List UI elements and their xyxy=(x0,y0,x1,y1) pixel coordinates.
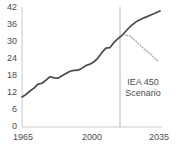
y-axis-tick-label: 36 xyxy=(0,20,17,29)
y-axis-tick-label: 18 xyxy=(0,71,17,80)
annotation-line-1: IEA 450 xyxy=(110,77,176,88)
iea-450-scenario-annotation: IEA 450 Scenario xyxy=(110,77,176,99)
y-axis-tick-label: 24 xyxy=(0,54,17,63)
chart-plot-area xyxy=(0,0,178,152)
y-axis-tick-label: 30 xyxy=(0,37,17,46)
chart-axes xyxy=(22,7,162,127)
y-axis-tick-label: 42 xyxy=(0,3,17,12)
x-axis-tick-label: 2035 xyxy=(142,133,176,142)
chart-container: 42 36 30 24 18 12 6 0 1965 2000 2035 IEA… xyxy=(0,0,178,152)
x-axis-tick-label: 2000 xyxy=(75,133,109,142)
x-axis-tick-label: 1965 xyxy=(6,133,40,142)
y-axis-tick-label: 6 xyxy=(0,105,17,114)
annotation-line-2: Scenario xyxy=(110,88,176,99)
y-axis-tick-label: 12 xyxy=(0,88,17,97)
y-axis-tick-label: 0 xyxy=(0,122,17,131)
series-line-iea450 xyxy=(124,35,158,62)
